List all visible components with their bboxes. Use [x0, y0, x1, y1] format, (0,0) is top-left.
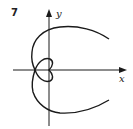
- outer-curve-upper: [32, 27, 109, 70]
- figure-number: 7: [11, 7, 18, 18]
- x-axis-label: x: [119, 73, 125, 84]
- y-axis-arrow-icon: [46, 9, 52, 17]
- x-axis: [13, 67, 127, 73]
- outer-curve-lower: [32, 70, 109, 113]
- curve-plot: [0, 0, 133, 129]
- y-axis-label: y: [56, 8, 62, 19]
